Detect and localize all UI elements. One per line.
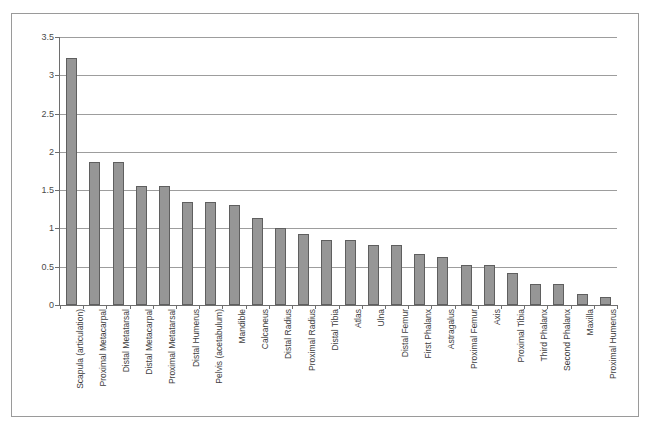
bar-slot <box>83 37 106 305</box>
bar[interactable] <box>437 257 448 305</box>
x-label-slot: Third Phalanx <box>524 309 547 427</box>
x-label-slot: Atlas <box>339 309 362 427</box>
bar-slot <box>478 37 501 305</box>
x-label-slot: Distal Tibia <box>315 309 338 427</box>
bar-slot <box>547 37 570 305</box>
bar[interactable] <box>321 240 332 305</box>
bar-slot <box>60 37 83 305</box>
bar[interactable] <box>345 240 356 305</box>
x-label-slot: Mandible <box>222 309 245 427</box>
x-label-slot: Proximal Humerus <box>594 309 617 427</box>
bar[interactable] <box>66 58 77 305</box>
bar[interactable] <box>461 265 472 305</box>
bar[interactable] <box>113 162 124 305</box>
bar[interactable] <box>229 205 240 305</box>
bar[interactable] <box>414 254 425 305</box>
bar-slot <box>594 37 617 305</box>
bar-slot <box>246 37 269 305</box>
x-label-slot: Distal Humerus <box>176 309 199 427</box>
x-label-slot: Distal Femur <box>385 309 408 427</box>
bar-slot <box>455 37 478 305</box>
x-tick-label: Proximal Humerus <box>609 309 618 379</box>
bar[interactable] <box>577 294 588 305</box>
bar-slot <box>431 37 454 305</box>
bar[interactable] <box>368 245 379 305</box>
y-tick-label: 1 <box>2 224 54 233</box>
y-tick-label: 0.5 <box>2 263 54 272</box>
bar[interactable] <box>507 273 518 305</box>
bar[interactable] <box>530 284 541 305</box>
y-tick-label: 0 <box>2 301 54 310</box>
x-label-slot: Proximal Femur <box>455 309 478 427</box>
x-axis-labels: Scapula (articulation)Proximal Metacarpa… <box>60 309 617 427</box>
bar[interactable] <box>391 245 402 305</box>
x-label-slot: Second Phalanx <box>547 309 570 427</box>
y-tick-label: 2 <box>2 148 54 157</box>
bar-slot <box>385 37 408 305</box>
bar-slot <box>222 37 245 305</box>
x-label-slot: Pelvis (acetabulum) <box>199 309 222 427</box>
x-label-slot: Distal Metacarpal <box>130 309 153 427</box>
x-label-slot: Proximal Metatarsal <box>153 309 176 427</box>
bar-slot <box>130 37 153 305</box>
bar-slot <box>292 37 315 305</box>
y-tick-label: 2.5 <box>2 110 54 119</box>
x-label-slot: Scapula (articulation) <box>60 309 83 427</box>
bar-slot <box>524 37 547 305</box>
bar[interactable] <box>252 218 263 305</box>
x-label-slot: Ulna <box>362 309 385 427</box>
bar-series <box>60 37 617 305</box>
bar[interactable] <box>298 234 309 305</box>
x-label-slot: Calcaneus <box>246 309 269 427</box>
x-label-slot: Proximal Metacarpal <box>83 309 106 427</box>
bar-slot <box>501 37 524 305</box>
x-label-slot: Proximal Radius <box>292 309 315 427</box>
bar[interactable] <box>89 162 100 305</box>
bar[interactable] <box>275 228 286 305</box>
bar[interactable] <box>600 297 611 305</box>
bar-slot <box>176 37 199 305</box>
x-label-slot: Axis <box>478 309 501 427</box>
bar-slot <box>106 37 129 305</box>
bar[interactable] <box>182 202 193 305</box>
y-tick-label: 3 <box>2 71 54 80</box>
x-label-slot: First Phalanx <box>408 309 431 427</box>
x-label-slot: Astragalus <box>431 309 454 427</box>
y-axis-labels: 3.532.521.510.50 <box>0 0 54 430</box>
bar-slot <box>153 37 176 305</box>
x-label-slot: Distal Metatarsal <box>106 309 129 427</box>
x-label-slot: Proximal Tibia <box>501 309 524 427</box>
bar-slot <box>199 37 222 305</box>
bar[interactable] <box>484 265 495 305</box>
chart-figure: 3.532.521.510.50 Scapula (articulation)P… <box>0 0 648 430</box>
y-tick-label: 1.5 <box>2 186 54 195</box>
bar-slot <box>339 37 362 305</box>
y-tick-label: 3.5 <box>2 33 54 42</box>
bar-slot <box>571 37 594 305</box>
bar-slot <box>315 37 338 305</box>
bar-slot <box>408 37 431 305</box>
bar[interactable] <box>136 186 147 305</box>
bar[interactable] <box>205 202 216 305</box>
bar[interactable] <box>159 186 170 305</box>
bar[interactable] <box>553 284 564 305</box>
bar-slot <box>269 37 292 305</box>
x-label-slot: Distal Radius <box>269 309 292 427</box>
bar-slot <box>362 37 385 305</box>
x-label-slot: Maxilla <box>571 309 594 427</box>
